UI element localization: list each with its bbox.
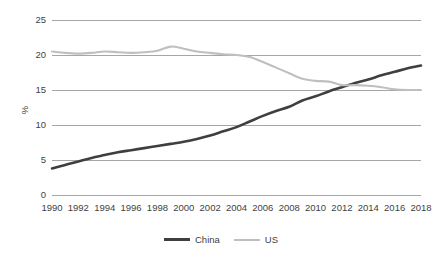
- x-tick-label: 2008: [275, 202, 303, 213]
- x-tick-label: 2012: [328, 202, 356, 213]
- x-tick-label: 2002: [196, 202, 224, 213]
- x-tick-label: 1994: [91, 202, 119, 213]
- line-chart: % 2520151050 199019921994199619982000200…: [0, 0, 442, 261]
- gridlines: [52, 20, 421, 195]
- legend-label-us: US: [265, 234, 278, 245]
- x-tick-label: 1996: [117, 202, 145, 213]
- y-tick-label: 25: [20, 15, 46, 25]
- x-tick-label: 2016: [381, 202, 409, 213]
- legend-swatch-us: [234, 239, 260, 241]
- x-tick-label: 2000: [170, 202, 198, 213]
- x-tick-label: 2014: [354, 202, 382, 213]
- y-tick-label: 0: [20, 190, 46, 200]
- legend-item-china: China: [164, 234, 220, 245]
- series-line-us: [52, 47, 421, 91]
- y-axis-title-label: %: [10, 99, 40, 121]
- y-tick-label: 5: [20, 155, 46, 165]
- y-tick-label: 10: [20, 120, 46, 130]
- series-line-china: [52, 66, 421, 169]
- x-tick-label: 1998: [143, 202, 171, 213]
- x-tick-label: 2004: [223, 202, 251, 213]
- legend-item-us: US: [234, 234, 278, 245]
- series-lines: [52, 47, 421, 169]
- x-tick-label: 2010: [302, 202, 330, 213]
- legend-label-china: China: [195, 234, 220, 245]
- chart-legend: China US: [0, 234, 442, 245]
- y-tick-label: 20: [20, 50, 46, 60]
- x-tick-label: 1990: [38, 202, 66, 213]
- x-tick-label: 2006: [249, 202, 277, 213]
- legend-swatch-china: [164, 238, 190, 241]
- x-tick-label: 2018: [407, 202, 435, 213]
- chart-plot-area: [0, 0, 442, 261]
- y-tick-label: 15: [20, 85, 46, 95]
- x-tick-label: 1992: [64, 202, 92, 213]
